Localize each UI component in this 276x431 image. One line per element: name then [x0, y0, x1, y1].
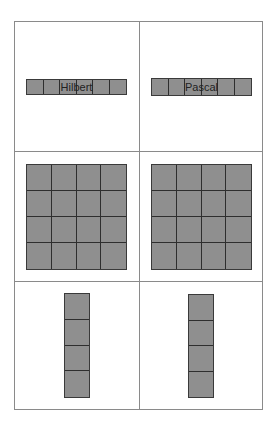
grid-cell	[202, 217, 227, 243]
hilbert-2d-grid	[26, 164, 127, 270]
grid-cell	[218, 79, 235, 95]
grid-cell	[177, 165, 202, 191]
grid-cell	[226, 217, 251, 243]
grid-cell	[77, 80, 94, 94]
grid-cell	[226, 165, 251, 191]
grid-cell	[202, 79, 219, 95]
grid-cell	[152, 243, 177, 269]
hilbert-column-block	[64, 293, 90, 398]
grid-cell	[101, 191, 126, 217]
hilbert-1d-block: Hilbert	[26, 79, 127, 95]
grid-cell	[60, 80, 77, 94]
grid-cell	[52, 217, 77, 243]
grid-cell	[93, 80, 110, 94]
grid-cell	[77, 191, 102, 217]
grid-cell	[152, 217, 177, 243]
pascal-column-block	[188, 294, 214, 398]
grid-cell	[27, 191, 52, 217]
grid-cell	[110, 80, 127, 94]
grid-cell	[152, 165, 177, 191]
grid-cell	[65, 371, 89, 397]
grid-cell	[235, 79, 252, 95]
grid-cell	[101, 243, 126, 269]
pascal-2d-grid	[151, 164, 252, 270]
grid-cell	[44, 80, 61, 94]
grid-cell	[152, 191, 177, 217]
grid-cell	[77, 165, 102, 191]
grid-cell	[189, 346, 213, 372]
grid-cell	[226, 191, 251, 217]
grid-cell	[27, 165, 52, 191]
grid-cell	[226, 243, 251, 269]
grid-cell	[52, 191, 77, 217]
grid-cell	[202, 191, 227, 217]
pascal-1d-block: Pascal	[151, 78, 252, 96]
grid-cell	[177, 243, 202, 269]
grid-cell	[177, 217, 202, 243]
grid-cell	[152, 79, 169, 95]
grid-cell	[189, 321, 213, 347]
grid-cell	[65, 294, 89, 320]
figure-caption-cut-off	[40, 420, 240, 431]
row-divider-1	[14, 151, 263, 152]
grid-cell	[65, 320, 89, 346]
column-divider	[139, 21, 140, 410]
grid-cell	[101, 165, 126, 191]
grid-cell	[27, 80, 44, 94]
grid-cell	[189, 372, 213, 398]
grid-cell	[77, 217, 102, 243]
grid-cell	[77, 243, 102, 269]
grid-cell	[65, 346, 89, 372]
grid-cell	[202, 165, 227, 191]
grid-cell	[52, 243, 77, 269]
grid-cell	[27, 243, 52, 269]
row-divider-2	[14, 281, 263, 282]
grid-cell	[52, 165, 77, 191]
grid-cell	[185, 79, 202, 95]
grid-cell	[202, 243, 227, 269]
grid-cell	[189, 295, 213, 321]
grid-cell	[101, 217, 126, 243]
grid-cell	[169, 79, 186, 95]
grid-cell	[27, 217, 52, 243]
grid-cell	[177, 191, 202, 217]
